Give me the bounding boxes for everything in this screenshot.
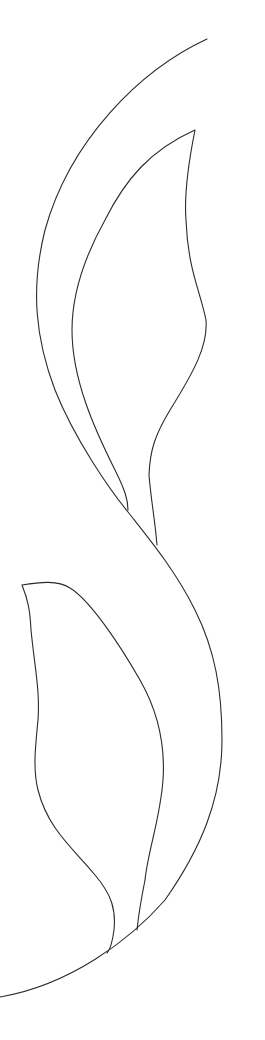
leaf-stem-drawing bbox=[0, 0, 265, 1040]
main-stem-curve bbox=[0, 39, 222, 997]
lower-leaf bbox=[22, 582, 163, 953]
upper-leaf bbox=[72, 130, 206, 545]
line-art-canvas bbox=[0, 0, 265, 1040]
